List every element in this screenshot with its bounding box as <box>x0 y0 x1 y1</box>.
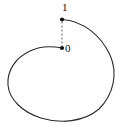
point-zero-marker <box>60 46 64 50</box>
spiral-diagram-svg <box>0 0 123 130</box>
figure-canvas: 1 0 <box>0 0 123 130</box>
point-zero-label: 0 <box>65 43 71 54</box>
spiral-curve <box>8 20 114 122</box>
point-one-label: 1 <box>62 2 68 13</box>
point-one-marker <box>60 17 64 21</box>
